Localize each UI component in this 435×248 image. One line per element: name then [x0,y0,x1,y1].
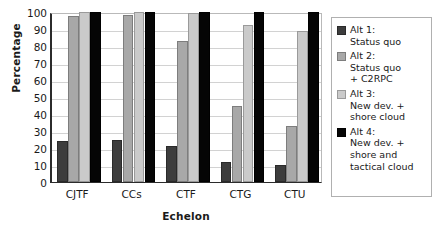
bar [243,25,254,182]
x-axis-title: Echelon [50,210,322,222]
y-tick-label: 100 [19,8,47,18]
legend-item: Alt 1: Status quo [337,24,426,47]
legend-item: Alt 3: New dev. + shore cloud [337,88,426,123]
y-tick-label: 80 [19,42,47,52]
y-tick-label: 60 [19,76,47,86]
bar [112,140,123,182]
bar-group [270,14,324,182]
bar [90,12,101,182]
y-tick-label: 10 [19,161,47,171]
legend-label: Alt 3: New dev. + shore cloud [350,88,405,123]
y-tick-label: 20 [19,144,47,154]
bar [275,165,286,182]
y-tick-label: 30 [19,127,47,137]
bar [123,15,134,182]
legend-swatch-icon [337,128,346,137]
legend-swatch-icon [337,90,346,99]
plot-area [50,13,322,183]
bar-group [52,14,106,182]
y-axis-tick-labels: 0102030405060708090100 [19,13,47,183]
bar [188,13,199,182]
y-tick-label: 0 [19,178,47,188]
bar [79,12,90,182]
bar [68,16,79,182]
bar [145,12,156,182]
bar-group [161,14,215,182]
y-tick-label: 90 [19,25,47,35]
bar [297,31,308,182]
y-tick-label: 50 [19,93,47,103]
x-axis-tick-labels: CJTFCCsCTFCTGCTU [50,188,322,204]
legend-item: Alt 2: Status quo + C2RPC [337,50,426,85]
legend-swatch-icon [337,52,346,61]
bar-group [215,14,269,182]
y-tick-label: 40 [19,110,47,120]
y-tick-label: 70 [19,59,47,69]
legend-label: Alt 1: Status quo [350,24,401,47]
bar [286,126,297,182]
legend-label: Alt 2: Status quo + C2RPC [350,50,401,85]
legend-label: Alt 4: New dev. + shore and tactical clo… [350,126,414,172]
bar-chart-figure: Percentage 0102030405060708090100 CJTFCC… [0,0,435,248]
bar [177,41,188,182]
bar [57,141,68,182]
bar [232,106,243,183]
bar [308,12,319,182]
x-tick-label: CTU [268,188,322,200]
bar-group [106,14,160,182]
x-tick-label: CTG [213,188,267,200]
bar [134,12,145,182]
bar-series-container [52,14,321,182]
legend-item: Alt 4: New dev. + shore and tactical clo… [337,126,426,172]
chart-legend: Alt 1: Status quoAlt 2: Status quo + C2R… [331,17,432,197]
x-tick-label: CJTF [50,188,104,200]
bar [166,146,177,182]
x-tick-label: CCs [104,188,158,200]
bar [221,162,232,182]
bar [254,12,265,182]
legend-swatch-icon [337,26,346,35]
bar [199,12,210,182]
x-tick-label: CTF [159,188,213,200]
